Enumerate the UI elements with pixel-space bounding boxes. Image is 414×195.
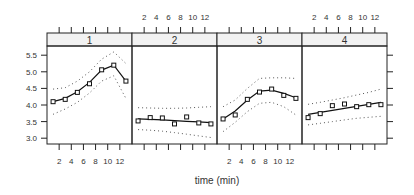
data-point xyxy=(197,121,201,125)
data-point xyxy=(367,103,371,107)
lattice-chart: 1246810122246810123246810124246810123.03… xyxy=(0,0,414,195)
panel-3: 324681012 xyxy=(217,27,302,166)
data-point xyxy=(88,82,92,86)
x-tick-label: 4 xyxy=(324,13,329,22)
data-point xyxy=(282,93,286,97)
data-point xyxy=(173,122,177,126)
confidence-band-upper xyxy=(138,107,211,109)
y-tick-label: 3.0 xyxy=(26,134,38,143)
data-point xyxy=(245,97,249,101)
data-point xyxy=(51,100,55,104)
x-tick-label: 8 xyxy=(178,13,183,22)
data-point xyxy=(209,122,213,126)
data-point xyxy=(233,113,237,117)
data-point xyxy=(330,104,334,108)
data-point xyxy=(258,90,262,94)
x-axis-title: time (min) xyxy=(195,175,239,186)
data-point xyxy=(379,103,383,107)
data-point xyxy=(63,97,67,101)
x-tick-label: 12 xyxy=(200,13,209,22)
panel-1: 124681012 xyxy=(47,27,132,166)
data-point xyxy=(294,96,298,100)
y-tick-label: 4.0 xyxy=(26,101,38,110)
x-tick-label: 4 xyxy=(239,157,244,166)
x-tick-label: 2 xyxy=(227,157,232,166)
y-tick-label: 5.5 xyxy=(26,51,38,60)
data-point xyxy=(306,116,310,120)
strip-label: 2 xyxy=(172,35,178,46)
data-point xyxy=(124,79,128,83)
panel-4: 424681012 xyxy=(302,13,387,150)
x-tick-label: 8 xyxy=(93,157,98,166)
x-tick-label: 8 xyxy=(348,13,353,22)
data-point xyxy=(112,63,116,67)
data-point xyxy=(100,68,104,72)
x-tick-label: 10 xyxy=(188,13,197,22)
y-tick-label: 3.5 xyxy=(26,118,38,127)
panel-2: 224681012 xyxy=(132,13,217,150)
data-point xyxy=(355,105,359,109)
confidence-band-lower xyxy=(138,130,211,138)
data-point xyxy=(75,90,79,94)
data-point xyxy=(136,119,140,123)
x-tick-label: 6 xyxy=(166,13,171,22)
x-tick-label: 4 xyxy=(154,13,159,22)
x-tick-label: 6 xyxy=(336,13,341,22)
x-tick-label: 4 xyxy=(69,157,74,166)
x-tick-label: 6 xyxy=(251,157,256,166)
x-tick-label: 6 xyxy=(81,157,86,166)
data-point xyxy=(270,87,274,91)
x-tick-label: 8 xyxy=(263,157,268,166)
x-tick-label: 10 xyxy=(273,157,282,166)
x-tick-label: 10 xyxy=(103,157,112,166)
data-point xyxy=(160,116,164,120)
x-tick-label: 10 xyxy=(358,13,367,22)
strip-label: 1 xyxy=(87,35,93,46)
data-point xyxy=(148,116,152,120)
x-tick-label: 12 xyxy=(285,157,294,166)
data-point xyxy=(221,117,225,121)
y-tick-label: 5.0 xyxy=(26,68,38,77)
y-tick-label: 4.5 xyxy=(26,84,38,93)
data-point xyxy=(343,102,347,106)
x-tick-label: 2 xyxy=(57,157,62,166)
x-tick-label: 12 xyxy=(370,13,379,22)
strip-label: 3 xyxy=(257,35,263,46)
x-tick-label: 2 xyxy=(312,13,317,22)
x-tick-label: 2 xyxy=(142,13,147,22)
confidence-band-lower xyxy=(308,116,381,125)
data-point xyxy=(318,112,322,116)
x-tick-label: 12 xyxy=(115,157,124,166)
strip-label: 4 xyxy=(342,35,348,46)
data-point xyxy=(185,115,189,119)
